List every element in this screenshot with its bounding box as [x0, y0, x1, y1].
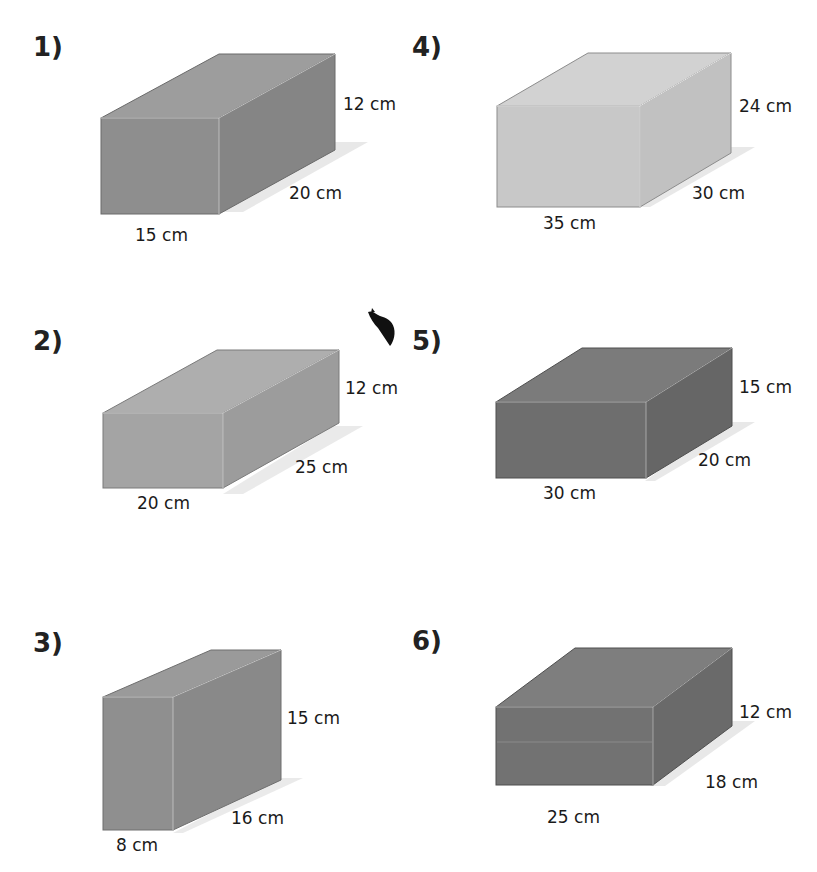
prism-front-face: [497, 106, 640, 207]
problem-1: 1) 12 cm 20 cm 15 cm: [33, 32, 433, 292]
ink-smudge-mark: [366, 308, 398, 348]
depth-label: 25 cm: [295, 457, 348, 477]
rectangular-prism-figure: [33, 326, 433, 556]
rectangular-prism-figure: [33, 628, 433, 868]
height-label: 24 cm: [739, 96, 792, 116]
problem-3: 3) 15 cm 16 cm 8 cm: [33, 628, 433, 872]
rectangular-prism-figure: [410, 626, 810, 856]
prism-front-face: [103, 697, 173, 830]
height-label: 12 cm: [345, 378, 398, 398]
prism-front-face: [496, 707, 653, 785]
prism-front-face: [496, 402, 646, 478]
height-label: 12 cm: [739, 702, 792, 722]
problem-6: 6) 12 cm 18 cm 25 cm: [410, 626, 810, 872]
depth-label: 20 cm: [698, 450, 751, 470]
height-label: 12 cm: [343, 94, 396, 114]
width-label: 8 cm: [116, 835, 158, 855]
height-label: 15 cm: [739, 377, 792, 397]
rectangular-prism-figure: [33, 32, 433, 262]
width-label: 15 cm: [135, 225, 188, 245]
problem-4: 4) 24 cm 30 cm 35 cm: [410, 32, 810, 292]
problem-2: 2) 12 cm 25 cm 20 cm: [33, 326, 433, 586]
width-label: 30 cm: [543, 483, 596, 503]
height-label: 15 cm: [287, 708, 340, 728]
depth-label: 30 cm: [692, 183, 745, 203]
prism-front-face: [103, 413, 223, 488]
depth-label: 16 cm: [231, 808, 284, 828]
depth-label: 18 cm: [705, 772, 758, 792]
width-label: 25 cm: [547, 807, 600, 827]
rectangular-prism-figure: [410, 326, 810, 556]
width-label: 35 cm: [543, 213, 596, 233]
rectangular-prism-figure: [410, 32, 810, 262]
width-label: 20 cm: [137, 493, 190, 513]
prism-front-face: [101, 118, 219, 214]
depth-label: 20 cm: [289, 183, 342, 203]
problem-5: 5) 15 cm 20 cm 30 cm: [410, 326, 810, 586]
